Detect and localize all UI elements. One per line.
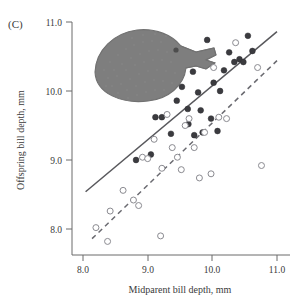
y-axis-title: Offspring bill depth, mm	[15, 90, 26, 190]
data-point-filled	[221, 67, 227, 73]
x-tick-label-11: 11.0	[269, 265, 286, 275]
data-point-open	[178, 167, 184, 173]
data-point-filled	[168, 131, 174, 137]
data-point-open	[93, 225, 99, 231]
data-point-open	[196, 175, 202, 181]
data-point-filled	[204, 37, 210, 43]
y-tick-label-10: 10.0	[45, 87, 62, 97]
data-point-filled	[185, 106, 191, 112]
figure-panel-c: (C) 11.0 10.0 9.0 8.0 Offspring bill dep…	[0, 0, 304, 304]
data-point-open	[107, 208, 113, 214]
panel-label: (C)	[8, 18, 23, 31]
data-point-open	[158, 233, 164, 239]
scatter-plot-svg: (C) 11.0 10.0 9.0 8.0 Offspring bill dep…	[0, 0, 304, 304]
data-point-open	[258, 163, 264, 169]
x-tick-label-9: 9.0	[142, 265, 154, 275]
data-point-filled	[226, 49, 232, 55]
data-point-filled	[133, 157, 139, 163]
data-point-open	[151, 136, 157, 142]
data-point-open	[202, 129, 208, 135]
data-point-open	[186, 116, 192, 122]
y-tick-label-11: 11.0	[46, 18, 63, 28]
data-point-filled	[215, 128, 221, 134]
data-point-open	[224, 116, 230, 122]
data-point-filled	[153, 114, 159, 120]
data-point-open	[191, 145, 197, 151]
data-point-filled	[208, 116, 214, 122]
data-point-open	[208, 171, 214, 177]
data-point-open	[233, 40, 239, 46]
x-axis-group: 8.0 9.0 10.0 11.0 Midparent bill depth, …	[72, 255, 290, 295]
data-point-open	[174, 154, 180, 160]
data-point-filled	[240, 59, 246, 65]
data-point-filled	[245, 33, 251, 39]
data-point-open	[211, 65, 217, 71]
data-point-open	[136, 203, 142, 209]
data-point-open	[169, 145, 175, 151]
data-point-filled	[190, 69, 196, 75]
data-point-filled	[195, 89, 201, 95]
finch-eye	[173, 47, 178, 52]
data-point-open	[145, 156, 151, 162]
x-axis-title: Midparent bill depth, mm	[129, 284, 232, 295]
data-point-open	[105, 238, 111, 244]
data-point-open	[120, 187, 126, 193]
data-point-filled	[179, 84, 185, 90]
y-tick-label-9: 9.0	[50, 156, 62, 166]
data-point-open	[216, 114, 222, 120]
data-point-open	[255, 65, 261, 71]
y-tick-label-8: 8.0	[50, 225, 62, 235]
data-point-open	[159, 165, 165, 171]
data-point-open	[164, 111, 170, 117]
x-tick-label-8: 8.0	[77, 265, 89, 275]
data-point-filled	[211, 80, 217, 86]
x-tick-label-10: 10.0	[204, 265, 221, 275]
data-point-filled	[191, 132, 197, 138]
data-point-filled	[198, 107, 204, 113]
data-point-open	[130, 197, 136, 203]
data-point-filled	[217, 88, 223, 94]
y-axis-group: 11.0 10.0 9.0 8.0 Offspring bill depth, …	[15, 18, 72, 255]
data-point-filled	[231, 59, 237, 65]
data-point-filled	[174, 98, 180, 104]
data-point-filled	[250, 48, 256, 54]
data-point-open	[182, 123, 188, 129]
